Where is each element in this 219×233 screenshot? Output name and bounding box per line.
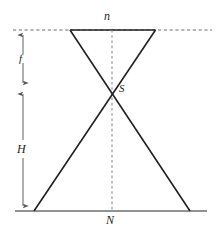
label-bottom-plane-N: N — [106, 214, 114, 226]
label-distance-H: H — [17, 143, 26, 155]
ray-right-to-left — [34, 30, 156, 211]
figure-drawing — [0, 0, 219, 233]
ray-left-to-right — [70, 30, 190, 211]
label-distance-f: f — [19, 53, 22, 64]
label-top-plane-n: n — [104, 10, 110, 22]
figure-container: n N S f H — [0, 0, 219, 233]
label-crossing-point-S: S — [119, 83, 125, 94]
